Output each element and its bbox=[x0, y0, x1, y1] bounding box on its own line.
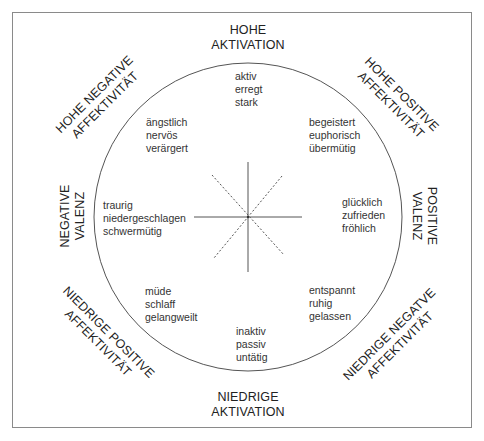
emotion-word: inaktiv bbox=[236, 325, 268, 338]
words-low-positive: müde schlaff gelangweilt bbox=[145, 285, 198, 324]
emotion-word: schwermütig bbox=[103, 225, 186, 238]
emotion-word: gelassen bbox=[309, 310, 355, 323]
label-negative-valence: NEGATIVE VALENZ bbox=[58, 166, 88, 266]
emotion-word: traurig bbox=[103, 199, 186, 212]
words-negative-valence: traurig niedergeschlagen schwermütig bbox=[103, 199, 186, 238]
emotion-word: müde bbox=[145, 285, 198, 298]
label-line: AKTIVATION bbox=[198, 405, 298, 420]
label-high-activation: HOHE AKTIVATION bbox=[198, 23, 298, 53]
emotion-word: aktiv bbox=[235, 70, 262, 83]
emotion-word: ängstlich bbox=[146, 116, 188, 129]
label-line: POSITIVE bbox=[424, 166, 439, 266]
emotion-word: untätig bbox=[236, 351, 268, 364]
emotion-word: entspannt bbox=[309, 284, 355, 297]
label-line: HOHE bbox=[198, 23, 298, 38]
emotion-word: ruhig bbox=[309, 297, 355, 310]
words-low-negative: entspannt ruhig gelassen bbox=[309, 284, 355, 323]
emotion-word: schlaff bbox=[145, 298, 198, 311]
emotion-word: verärgert bbox=[146, 142, 188, 155]
emotion-word: gelangweilt bbox=[145, 311, 198, 324]
words-high-negative: ängstlich nervös verärgert bbox=[146, 116, 188, 155]
emotion-word: übermütig bbox=[309, 142, 360, 155]
label-line: VALENZ bbox=[409, 166, 424, 266]
words-positive-valence: glücklich zufrieden fröhlich bbox=[342, 196, 385, 235]
emotion-word: erregt bbox=[235, 83, 262, 96]
emotion-word: glücklich bbox=[342, 196, 385, 209]
emotion-word: niedergeschlagen bbox=[103, 212, 186, 225]
label-line: AKTIVATION bbox=[198, 38, 298, 53]
label-line: NIEDRIGE bbox=[198, 390, 298, 405]
label-line: VALENZ bbox=[73, 166, 88, 266]
label-low-activation: NIEDRIGE AKTIVATION bbox=[198, 390, 298, 420]
label-line: NEGATIVE bbox=[58, 166, 73, 266]
emotion-word: fröhlich bbox=[342, 222, 385, 235]
emotion-word: begeistert bbox=[309, 116, 360, 129]
emotion-word: nervös bbox=[146, 129, 188, 142]
emotion-word: zufrieden bbox=[342, 209, 385, 222]
emotion-word: passiv bbox=[236, 338, 268, 351]
emotion-word: stark bbox=[235, 96, 262, 109]
words-high-positive: begeistert euphorisch übermütig bbox=[309, 116, 360, 155]
words-high-activation: aktiv erregt stark bbox=[235, 70, 262, 109]
words-low-activation: inaktiv passiv untätig bbox=[236, 325, 268, 364]
center-point bbox=[247, 216, 249, 218]
label-positive-valence: POSITIVE VALENZ bbox=[409, 166, 439, 266]
emotion-word: euphorisch bbox=[309, 129, 360, 142]
